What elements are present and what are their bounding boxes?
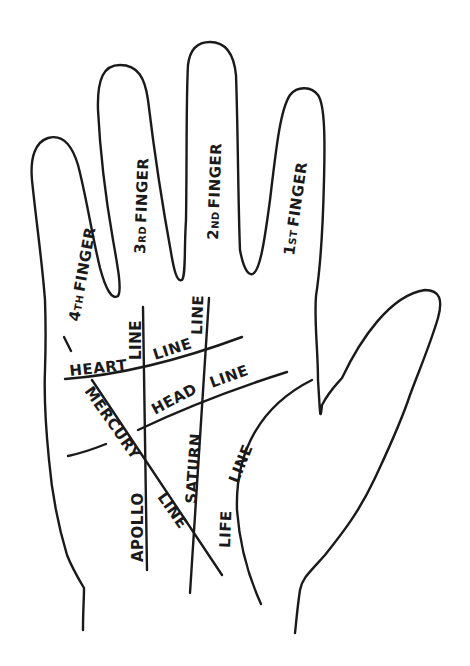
life-line xyxy=(237,380,312,604)
saturn-line-top-label: LINE xyxy=(188,295,207,336)
finger-label-second: 2NDFINGER xyxy=(204,142,225,240)
life-line-label-line: LINE xyxy=(225,442,257,486)
heart-line-label-heart: HEART xyxy=(69,356,129,380)
hand-outline xyxy=(32,42,441,633)
apollo-line-label-apollo: APOLLO xyxy=(129,492,147,562)
apollo-line-top-label: LINE xyxy=(127,320,145,360)
finger-label-first: 1STFINGER xyxy=(280,161,311,257)
saturn-line-label-saturn: SATURN xyxy=(182,432,205,504)
pinky-crease-mark xyxy=(64,337,71,351)
mercury-line-label-mercury: MERCURY xyxy=(81,383,145,463)
finger-label-third: 3RDFINGER xyxy=(131,157,152,254)
finger-label-fourth: 4THFINGER xyxy=(65,225,99,322)
palm-diagram: 4THFINGER 3RDFINGER 2NDFINGER 1STFINGER … xyxy=(0,0,470,666)
palm-crease-mark xyxy=(68,444,106,456)
life-line-label-life: LIFE xyxy=(216,510,235,548)
